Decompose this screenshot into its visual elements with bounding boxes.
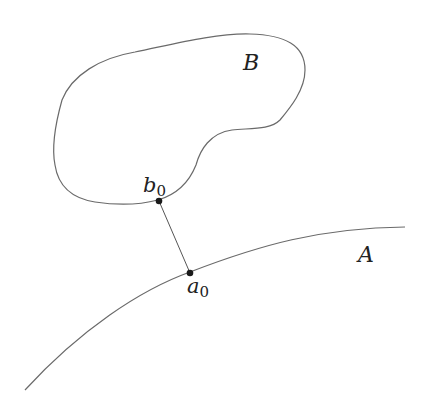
label-a: A	[356, 242, 374, 267]
diagram-canvas: B A b0 a0	[0, 0, 424, 408]
label-a0: a0	[187, 274, 209, 301]
label-b0-sub: 0	[156, 182, 166, 200]
set-b-outline	[54, 34, 305, 204]
label-a0-main: a	[187, 274, 200, 298]
label-a0-sub: 0	[200, 283, 210, 301]
label-b0: b0	[143, 173, 166, 200]
set-a-curve	[25, 227, 405, 390]
label-b: B	[242, 50, 259, 75]
distance-segment	[159, 201, 190, 273]
label-b0-main: b	[143, 173, 156, 197]
